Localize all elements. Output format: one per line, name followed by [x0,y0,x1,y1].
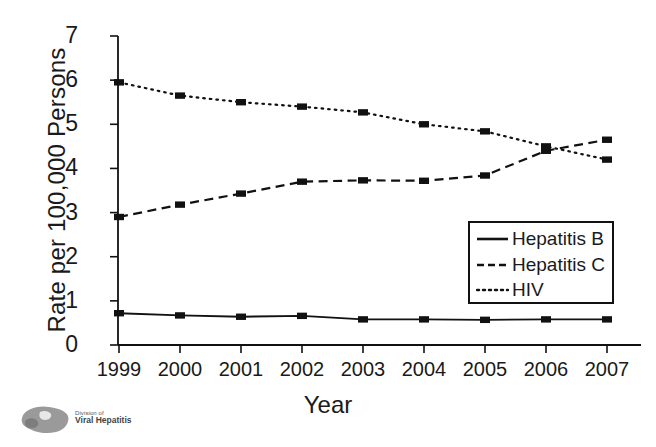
data-point-hepatitis-b-2003 [358,316,368,322]
data-point-hepatitis-b-2001 [236,314,246,320]
legend-swatch-dotted-icon [476,284,509,296]
data-point-hiv-2001 [236,99,246,105]
data-point-hepatitis-b-2007 [602,316,612,322]
legend-item-hepatitis-c: Hepatitis C [476,252,605,277]
data-point-hepatitis-c-2003 [358,177,368,183]
legend-item-hiv: HIV [476,277,544,302]
data-point-hepatitis-b-1999 [114,310,124,316]
data-point-hepatitis-b-2002 [297,313,307,319]
data-point-hepatitis-b-2005 [480,317,490,323]
data-point-hepatitis-c-2007 [602,137,612,143]
logo-line-2: Viral Hepatitis [75,416,132,425]
data-point-hepatitis-c-2004 [419,178,429,184]
chart-figure: Rate per 100,000 Persons Year 7 6 5 4 3 … [0,0,656,447]
logo-text: Division of Viral Hepatitis [75,410,132,425]
data-point-hiv-2007 [602,156,612,162]
data-point-hepatitis-b-2006 [541,316,551,322]
series-line-hiv [119,82,607,159]
data-point-hepatitis-b-2004 [419,316,429,322]
data-point-hiv-2000 [175,92,185,98]
data-point-hiv-2005 [480,128,490,134]
data-point-hiv-1999 [114,79,124,85]
data-point-hepatitis-c-1999 [114,214,124,220]
data-point-hiv-2006 [541,143,551,149]
chart-legend: Hepatitis B Hepatitis C HIV [468,221,614,304]
data-point-hepatitis-c-2000 [175,201,185,207]
data-point-hiv-2003 [358,109,368,115]
data-point-hepatitis-b-2000 [175,312,185,318]
data-point-hiv-2002 [297,103,307,109]
liver-icon [18,404,72,438]
legend-label-hepatitis-c: Hepatitis C [512,254,605,276]
division-of-viral-hepatitis-logo: Division of Viral Hepatitis [18,404,168,444]
legend-label-hepatitis-b: Hepatitis B [512,228,604,250]
legend-item-hepatitis-b: Hepatitis B [476,226,604,251]
legend-swatch-solid-icon [476,233,509,245]
data-point-hepatitis-c-2005 [480,172,490,178]
legend-label-hiv: HIV [512,279,544,301]
data-point-hepatitis-c-2002 [297,178,307,184]
legend-swatch-dashed-icon [476,259,509,271]
data-point-hepatitis-c-2001 [236,190,246,196]
data-point-hiv-2004 [419,121,429,127]
